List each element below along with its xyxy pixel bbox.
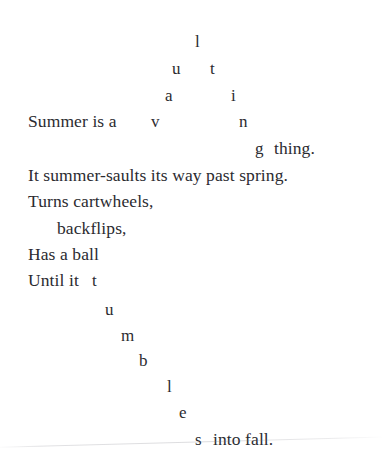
arc-letter: v [151,113,160,130]
cascade-letter: m [121,327,134,344]
poem-line-until-it: Until it [28,272,79,289]
poem-line-backflips: backflips, [57,220,127,237]
arc-letter: g [255,140,264,157]
arc-letter: a [165,87,173,104]
poem-line-summer-saults: It summer-saults its way past spring. [28,167,288,184]
poem-line-into-fall: into fall. [213,431,273,448]
poem-line-summer-is-a: Summer is a [28,113,117,130]
cascade-letter: l [167,378,172,395]
scan-line-artifact [0,436,384,448]
arc-letter: n [239,113,248,130]
cascade-letter: e [179,404,187,421]
poem-line-has-a-ball: Has a ball [28,246,99,263]
cascade-letter: b [139,352,148,369]
arc-letter: l [195,33,200,50]
arc-letter: u [172,60,181,77]
arc-letter: t [210,60,215,77]
poem-line-turns-cartwheels: Turns cartwheels, [28,193,153,210]
poem-line-thing: thing. [274,140,315,157]
cascade-letter: t [92,272,97,289]
cascade-letter: s [195,431,202,448]
cascade-letter: u [105,301,114,318]
arc-letter: i [231,87,236,104]
